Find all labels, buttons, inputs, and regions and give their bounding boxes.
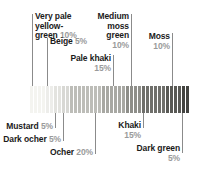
percent-mustard: 5%: [41, 121, 53, 131]
percent-khaki: 15%: [100, 131, 141, 141]
callout-medium-moss-green: Medium moss green 10%: [86, 12, 129, 50]
leader-line-dark-ocher: [63, 113, 64, 141]
leader-line-pale-khaki: [113, 55, 114, 86]
color-segment-pale-khaki: [102, 86, 126, 113]
leader-line-mustard: [55, 113, 56, 128]
color-segment-dark-ocher: [62, 86, 70, 113]
callout-ocher: Ocher 20%: [30, 148, 93, 158]
color-segment-very-pale-yellow-green: [30, 86, 46, 113]
leader-line-dark-green: [182, 113, 183, 153]
color-segment-moss: [166, 86, 182, 113]
leader-line-khaki: [143, 113, 144, 128]
label-dark-ocher-row: Dark ocher 5%: [2, 135, 61, 145]
callout-moss: Moss 10%: [135, 32, 170, 51]
percent-moss: 10%: [135, 42, 170, 52]
percent-ocher: 20%: [76, 147, 93, 157]
callout-khaki: Khaki 15%: [100, 121, 141, 140]
leader-line-medium-moss-green: [131, 14, 132, 86]
color-segment-beige: [46, 86, 54, 113]
leader-line-moss: [172, 33, 173, 86]
percent-dark-green: 5%: [112, 154, 180, 164]
callout-pale-khaki: Pale khaki 15%: [45, 54, 111, 73]
percent-dark-ocher: 5%: [49, 134, 61, 144]
color-strip: [30, 86, 190, 113]
color-segment-mustard: [54, 86, 62, 113]
label-mustard-row: Mustard 5%: [2, 122, 53, 132]
leader-line-ocher: [95, 113, 96, 154]
color-segment-dark-green: [182, 86, 190, 113]
color-proportion-chart: Very pale yellow- green 10% Beige 5% Pal…: [0, 0, 197, 175]
label-ocher-row: Ocher 20%: [30, 148, 93, 158]
color-segment-ocher: [70, 86, 102, 113]
callout-dark-ocher: Dark ocher 5%: [2, 135, 61, 145]
percent-medium-moss-green: 10%: [86, 41, 129, 51]
callout-dark-green: Dark green 5%: [112, 144, 180, 163]
color-stripe: [186, 86, 190, 113]
callout-mustard: Mustard 5%: [2, 122, 53, 132]
color-segment-medium-moss-green: [126, 86, 142, 113]
color-segment-khaki: [142, 86, 166, 113]
percent-pale-khaki: 15%: [45, 64, 111, 74]
leader-line-very-pale-yellow-green: [32, 14, 33, 86]
